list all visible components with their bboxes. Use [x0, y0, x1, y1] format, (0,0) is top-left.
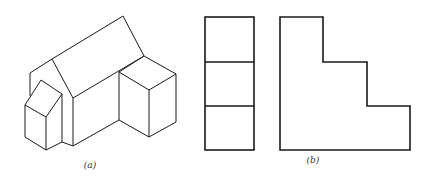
- side-view-rectangle: [205, 17, 254, 150]
- panel-b-label: (b): [307, 155, 320, 165]
- small-wing-roof: [25, 80, 62, 117]
- panel-a-label: (a): [84, 160, 97, 170]
- main-bottom-edge: [73, 120, 119, 146]
- left-gable-back: [30, 59, 52, 96]
- main-left-bottom: [62, 142, 73, 146]
- right-box-bottom: [119, 120, 176, 137]
- front-view-stepped-outline: [280, 17, 410, 150]
- figure-canvas: (a) (b): [0, 0, 432, 184]
- isometric-house-drawing: [25, 16, 176, 150]
- main-roof-plane: [52, 16, 144, 98]
- side-view-outline: [205, 17, 254, 150]
- right-box-top: [119, 56, 176, 90]
- small-wing-bottom: [25, 137, 62, 150]
